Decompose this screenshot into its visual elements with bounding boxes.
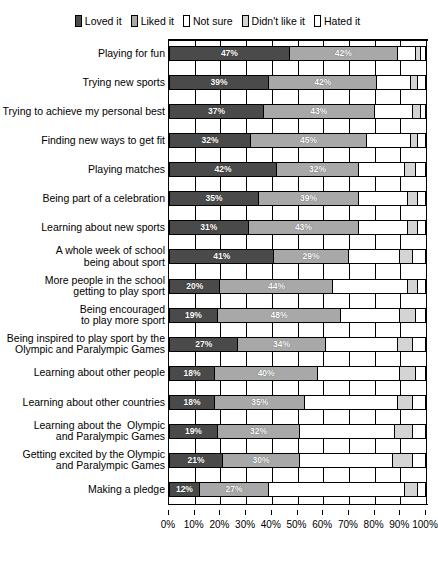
- chart-row: Finding new ways to get fit32%45%: [169, 133, 426, 148]
- segment-value-label: 18%: [184, 398, 201, 407]
- chart-row: More people in the school getting to pla…: [169, 279, 426, 294]
- bar-segment: [416, 366, 426, 381]
- bar-segment: [418, 220, 426, 235]
- stacked-bar: 35%39%: [169, 191, 426, 206]
- bar-segment: 20%: [169, 279, 220, 294]
- stacked-bar: 37%43%: [169, 104, 426, 119]
- bar-segment: 12%: [169, 482, 200, 497]
- segment-value-label: 27%: [195, 340, 212, 349]
- bar-segment: [411, 75, 419, 90]
- stacked-bar: 18%35%: [169, 395, 426, 410]
- bar-segment: [398, 395, 413, 410]
- category-label: Being inspired to play sport by the Olym…: [0, 333, 165, 356]
- bar-segment: 31%: [169, 220, 249, 235]
- category-label: Making a pledge: [0, 484, 165, 496]
- bar-segment: 35%: [169, 191, 259, 206]
- chart-row: Trying to achieve my personal best37%43%: [169, 104, 426, 119]
- category-label: Being part of a celebration: [0, 193, 165, 205]
- bar-segment: [418, 279, 426, 294]
- bar-segment: 21%: [169, 453, 223, 468]
- bar-segment: [300, 424, 395, 439]
- segment-value-label: 41%: [213, 252, 230, 261]
- bar-segment: 43%: [249, 220, 360, 235]
- segment-value-label: 47%: [221, 49, 238, 58]
- segment-value-label: 21%: [187, 456, 204, 465]
- bar-segment: [367, 133, 411, 148]
- bar-segment: [418, 133, 426, 148]
- stacked-bar: 19%48%: [169, 308, 426, 323]
- stacked-bar: 20%44%: [169, 279, 426, 294]
- x-tick-label: 10%: [184, 519, 204, 531]
- chart-row: Playing matches42%32%: [169, 162, 426, 177]
- bar-segment: [359, 191, 408, 206]
- x-axis-ticks: [168, 510, 425, 516]
- bar-segment: 45%: [251, 133, 367, 148]
- x-tick: [271, 510, 272, 515]
- bar-segment: [405, 162, 415, 177]
- x-tick-label: 100%: [412, 519, 438, 531]
- x-tick: [348, 510, 349, 515]
- stacked-bar: 32%45%: [169, 133, 426, 148]
- bar-segment: [413, 395, 426, 410]
- bar-segment: [418, 191, 426, 206]
- segment-value-label: 12%: [176, 485, 193, 494]
- legend-item: Liked it: [131, 15, 174, 27]
- x-tick: [374, 510, 375, 515]
- chart-row: Making a pledge12%27%: [169, 482, 426, 497]
- stacked-bar: 39%42%: [169, 75, 426, 90]
- x-tick: [245, 510, 246, 515]
- bar-segment: [395, 424, 413, 439]
- segment-value-label: 40%: [258, 369, 275, 378]
- category-label: Trying to achieve my personal best: [0, 106, 165, 118]
- segment-value-label: 32%: [202, 136, 219, 145]
- bar-segment: [418, 75, 426, 90]
- segment-value-label: 39%: [300, 194, 317, 203]
- segment-value-label: 48%: [271, 311, 288, 320]
- segment-value-label: 42%: [314, 78, 331, 87]
- bar-segment: [375, 104, 414, 119]
- legend-item: Not sure: [183, 15, 233, 27]
- bar-segment: 37%: [169, 104, 264, 119]
- chart-row: Learning about other countries18%35%: [169, 395, 426, 410]
- legend-swatch-icon: [183, 15, 190, 27]
- category-label: More people in the school getting to pla…: [0, 275, 165, 298]
- bar-segment: [398, 46, 416, 61]
- bar-segment: 47%: [169, 46, 290, 61]
- segment-value-label: 34%: [273, 340, 290, 349]
- bar-segment: 27%: [200, 482, 269, 497]
- bar-segment: [341, 308, 400, 323]
- bar-segment: 35%: [215, 395, 305, 410]
- segment-value-label: 32%: [309, 165, 326, 174]
- bar-segment: [377, 75, 410, 90]
- bar-segment: 42%: [169, 162, 277, 177]
- segment-value-label: 32%: [250, 427, 267, 436]
- bar-segment: [413, 453, 426, 468]
- segment-value-label: 35%: [251, 398, 268, 407]
- stacked-bar: 12%27%: [169, 482, 426, 497]
- bar-segment: [416, 308, 426, 323]
- bar-segment: [408, 191, 418, 206]
- bar-segment: [416, 162, 426, 177]
- segment-value-label: 19%: [185, 311, 202, 320]
- segment-value-label: 39%: [211, 78, 228, 87]
- bar-segment: 44%: [220, 279, 333, 294]
- chart-row: Being encouraged to play more sport19%48…: [169, 308, 426, 323]
- bar-segment: [333, 279, 408, 294]
- bar-segment: 42%: [269, 75, 377, 90]
- stacked-bar: 21%30%: [169, 453, 426, 468]
- bar-segment: 34%: [238, 337, 325, 352]
- legend-item: Didn't like it: [242, 15, 305, 27]
- bar-segment: [400, 366, 415, 381]
- category-label: Trying new sports: [0, 77, 165, 89]
- bar-segment: 48%: [218, 308, 341, 323]
- x-tick: [194, 510, 195, 515]
- segment-value-label: 31%: [200, 223, 217, 232]
- legend-label: Liked it: [141, 15, 174, 27]
- chart-row: Being part of a celebration35%39%: [169, 191, 426, 206]
- x-tick: [322, 510, 323, 515]
- category-label: A whole week of school being about sport: [0, 245, 165, 268]
- category-label: Getting excited by the Olympic and Paral…: [0, 449, 165, 472]
- legend-label: Loved it: [85, 15, 122, 27]
- legend-item: Hated it: [314, 15, 360, 27]
- bar-segment: 41%: [169, 249, 274, 264]
